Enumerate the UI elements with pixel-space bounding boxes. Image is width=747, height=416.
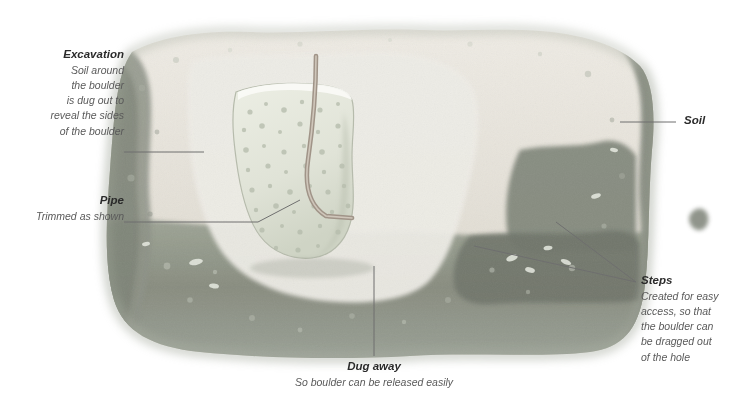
annotation-steps-line-4: be dragged out bbox=[641, 334, 747, 349]
annotation-steps-title: Steps bbox=[641, 272, 747, 289]
annotation-excavation-line-4: reveal the sides bbox=[0, 108, 124, 123]
soil-clod bbox=[689, 209, 708, 231]
annotation-pipe: Pipe Trimmed as shown bbox=[0, 192, 124, 224]
illustration-page: Excavation Soil around the boulder is du… bbox=[0, 0, 747, 416]
annotation-steps-line-5: of the hole bbox=[641, 350, 747, 365]
annotation-steps-line-2: access, so that bbox=[641, 304, 747, 319]
annotation-pipe-title: Pipe bbox=[0, 192, 124, 209]
annotation-pipe-line-1: Trimmed as shown bbox=[0, 209, 124, 224]
annotation-excavation-line-3: is dug out to bbox=[0, 93, 124, 108]
annotation-soil: Soil bbox=[684, 112, 744, 129]
annotation-steps: Steps Created for easy access, so that t… bbox=[641, 272, 747, 365]
annotation-dug-away-line-1: So boulder can be released easily bbox=[236, 375, 512, 390]
boulder-base-shadow bbox=[250, 258, 374, 278]
annotation-excavation: Excavation Soil around the boulder is du… bbox=[0, 46, 124, 139]
annotation-dug-away-title: Dug away bbox=[236, 358, 512, 375]
annotation-excavation-line-1: Soil around bbox=[0, 63, 124, 78]
annotation-steps-line-1: Created for easy bbox=[641, 289, 747, 304]
annotation-excavation-line-5: of the boulder bbox=[0, 124, 124, 139]
annotation-steps-line-3: the boulder can bbox=[641, 319, 747, 334]
ground-mass bbox=[100, 20, 670, 370]
annotation-dug-away: Dug away So boulder can be released easi… bbox=[236, 358, 512, 390]
annotation-excavation-title: Excavation bbox=[0, 46, 124, 63]
annotation-soil-title: Soil bbox=[684, 112, 744, 129]
annotation-excavation-line-2: the boulder bbox=[0, 78, 124, 93]
